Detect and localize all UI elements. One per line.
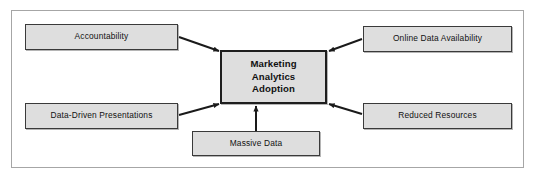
node-central-label-block: Marketing Analytics Adoption (250, 58, 296, 96)
node-data-driven-presentations-label: Data-Driven Presentations (51, 111, 153, 121)
node-reduced-resources[interactable]: Reduced Resources (363, 103, 512, 129)
connector-data-driven-presentations-to-central (179, 104, 219, 115)
connector-online-data-availability-to-central (329, 39, 362, 51)
node-central-label-line-2: Analytics (250, 71, 296, 84)
node-central-label-line-3: Adoption (250, 83, 296, 96)
node-online-data-availability-label: Online Data Availability (393, 34, 482, 44)
node-central-label-line-1: Marketing (250, 58, 296, 71)
connector-accountability-to-central (179, 37, 219, 51)
node-massive-data-label: Massive Data (230, 139, 283, 149)
diagram-canvas: Accountability Online Data Availability … (0, 0, 536, 179)
node-online-data-availability[interactable]: Online Data Availability (363, 26, 512, 52)
node-accountability[interactable]: Accountability (25, 24, 178, 50)
node-reduced-resources-label: Reduced Resources (398, 111, 476, 121)
node-data-driven-presentations[interactable]: Data-Driven Presentations (25, 103, 178, 129)
node-central-marketing-analytics-adoption[interactable]: Marketing Analytics Adoption (220, 50, 327, 104)
node-massive-data[interactable]: Massive Data (192, 131, 320, 156)
node-accountability-label: Accountability (75, 32, 129, 42)
connector-reduced-resources-to-central (329, 104, 362, 114)
